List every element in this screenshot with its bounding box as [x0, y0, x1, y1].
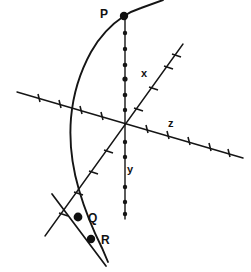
tick-mark: [38, 94, 40, 102]
tick-dot: [123, 140, 127, 144]
tick-dot: [123, 212, 127, 216]
point-dot: [87, 235, 95, 243]
point-label-r: R: [101, 233, 110, 247]
axis-x: x: [45, 44, 183, 236]
point-dot: [74, 213, 83, 222]
axis-z: z: [17, 92, 243, 158]
axis-z-line: [17, 92, 243, 158]
tick-dot: [123, 31, 127, 35]
figure-canvas: z x: [0, 0, 251, 272]
secant-line: [52, 194, 106, 266]
tick-mark: [80, 106, 82, 114]
point-dot: [120, 12, 128, 20]
tick-mark: [188, 137, 190, 145]
tick-dot: [122, 76, 127, 81]
tick-mark: [228, 149, 230, 157]
point-Q: Q: [74, 211, 98, 225]
point-P: P: [100, 7, 128, 21]
point-label-q: Q: [88, 211, 97, 225]
axes-diagram-svg: z x: [0, 0, 251, 272]
point-label-p: P: [100, 7, 108, 21]
tick-dot: [123, 63, 128, 68]
tick-dot: [123, 93, 128, 98]
tick-mark: [59, 100, 61, 108]
tick-dot: [123, 200, 127, 204]
tick-mark: [209, 143, 211, 151]
tick-dot: [123, 47, 127, 51]
axis-label-y: y: [127, 163, 134, 175]
axis-label-z: z: [168, 117, 174, 129]
axis-y: y: [122, 15, 134, 219]
tick-dot: [123, 155, 127, 159]
tick-dot: [123, 185, 127, 189]
tick-mark: [146, 125, 148, 133]
axis-x-line: [45, 44, 183, 236]
tick-dot: [123, 108, 127, 112]
tick-mark: [167, 131, 169, 139]
axis-label-x: x: [141, 67, 148, 79]
tick-mark: [101, 112, 103, 120]
